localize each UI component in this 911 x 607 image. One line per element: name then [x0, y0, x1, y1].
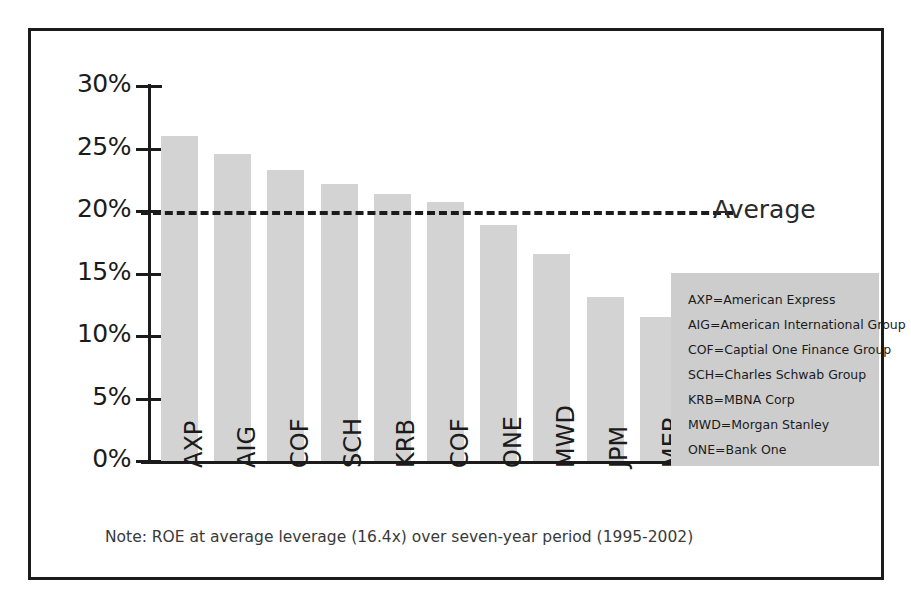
x-axis-label-text: KRB	[392, 419, 420, 468]
legend-entry-6: ONE=Bank One	[688, 437, 879, 462]
x-axis-label-text: COF	[446, 419, 474, 468]
x-axis-label-text: COF	[286, 419, 314, 468]
plot-area: 30%25%20%15%10%5%0% Average AXPAIGCOFSCH…	[31, 31, 881, 577]
legend-entry-4: KRB=MBNA Corp	[688, 387, 879, 412]
legend-entry-3: SCH=Charles Schwab Group	[688, 362, 879, 387]
legend-entry-5: MWD=Morgan Stanley	[688, 412, 879, 437]
x-axis-label-text: AIG	[233, 426, 261, 468]
x-axis-label-text: AXP	[180, 421, 208, 468]
legend-box: AXP=American ExpressAIG=American Interna…	[671, 273, 879, 466]
legend-entry-1: AIG=American International Group	[688, 312, 879, 337]
x-axis-label-text: SCH	[339, 418, 367, 468]
chart-figure-frame: 30%25%20%15%10%5%0% Average AXPAIGCOFSCH…	[28, 28, 884, 580]
chart-note: Note: ROE at average leverage (16.4x) ov…	[105, 528, 693, 546]
legend-entry-0: AXP=American Express	[688, 287, 879, 312]
x-axis-label-text: ONE	[499, 416, 527, 468]
x-axis-label-text: MWD	[552, 405, 580, 468]
x-axis-label-text: JPM	[605, 426, 633, 468]
legend-entry-2: COF=Captial One Finance Group	[688, 337, 879, 362]
